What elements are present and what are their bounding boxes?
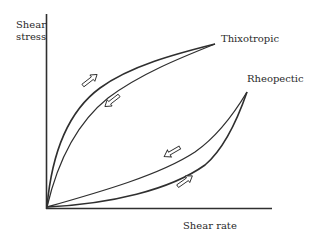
rheopectic-label: Rheopectic <box>247 73 304 85</box>
rheopectic-upper-curve <box>47 92 247 207</box>
y-axis-label: Shear stress <box>16 19 40 43</box>
y-axis-label-line1: Shear <box>16 19 40 31</box>
arrow-up-right-icon <box>175 173 194 190</box>
arrow-up-right-icon <box>80 71 99 88</box>
arrow-down-left-icon <box>162 144 182 160</box>
x-axis-label: Shear rate <box>183 220 237 232</box>
thixotropic-label: Thixotropic <box>221 33 279 45</box>
rheopectic-lower-curve <box>47 92 247 207</box>
y-axis-label-line2: stress <box>16 31 40 43</box>
